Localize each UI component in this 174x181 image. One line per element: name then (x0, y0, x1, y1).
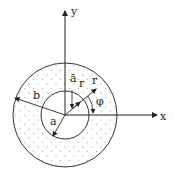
unit-vector-label: ā (70, 73, 77, 84)
y-axis-label: y (71, 6, 77, 17)
unit-vector-sub: r (79, 78, 84, 89)
phi-label: φ (96, 96, 104, 107)
r-label: r (92, 75, 97, 86)
x-axis-label: x (160, 111, 166, 122)
a-label: a (50, 116, 57, 127)
b-label: b (33, 90, 40, 101)
annulus-diagram (0, 0, 174, 181)
